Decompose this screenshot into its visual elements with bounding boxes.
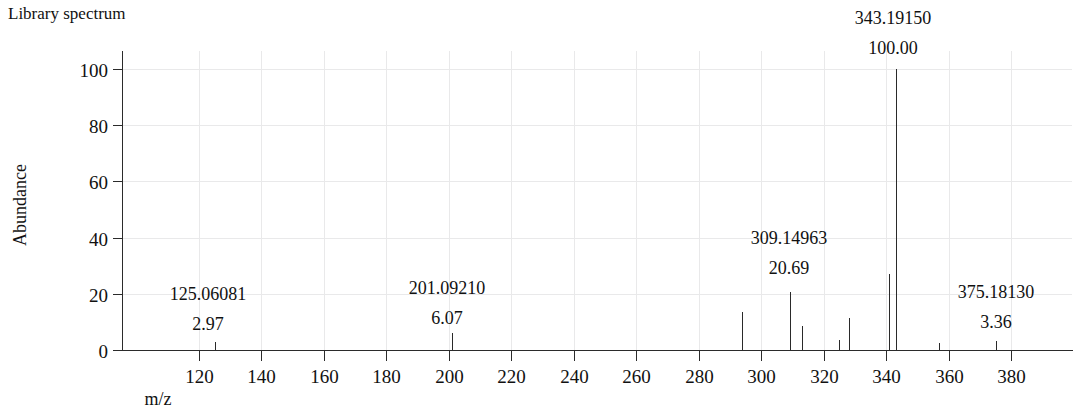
x-tick-label: 200: [435, 366, 464, 387]
peak-label-group: 309.1496320.69: [751, 228, 828, 278]
peak-label-group: 125.060812.97: [170, 284, 247, 334]
peak-mz-label: 125.06081: [170, 284, 247, 304]
x-tick-label: 220: [497, 366, 526, 387]
y-tick-label: 80: [89, 116, 108, 137]
peak-label-group: 201.092106.07: [409, 278, 486, 328]
x-tick-label: 160: [310, 366, 339, 387]
x-tick-label: 280: [685, 366, 714, 387]
peak-lines: [216, 69, 997, 351]
peak-label-group: 375.181303.36: [958, 282, 1035, 332]
x-tick-label: 360: [935, 366, 964, 387]
x-tick-label: 240: [560, 366, 589, 387]
y-tick-label: 100: [80, 60, 109, 81]
y-axis-ticks: 020406080100: [80, 60, 123, 362]
x-tick-label: 140: [247, 366, 276, 387]
y-tick-label: 0: [99, 341, 109, 362]
x-tick-label: 340: [872, 366, 901, 387]
peak-abundance-label: 3.36: [980, 312, 1012, 332]
mass-spectrum-plot: 020406080100 120140160180200220240260280…: [0, 0, 1081, 417]
x-axis-title: m/z: [145, 389, 172, 409]
x-tick-label: 180: [372, 366, 401, 387]
y-tick-label: 60: [89, 172, 108, 193]
peak-mz-label: 375.18130: [958, 282, 1035, 302]
y-tick-label: 40: [89, 229, 108, 250]
x-tick-label: 300: [747, 366, 776, 387]
x-axis-ticks: 1201401601802002202402602803003203403603…: [185, 351, 1026, 388]
peak-abundance-label: 20.69: [769, 258, 810, 278]
peak-abundance-label: 6.07: [431, 308, 463, 328]
y-axis-title: Abundance: [10, 164, 30, 246]
x-tick-label: 120: [185, 366, 214, 387]
spectrum-viewer: Library spectrum 020406080100 1201401601…: [0, 0, 1081, 417]
peak-abundance-label: 100.00: [868, 38, 918, 58]
x-tick-label: 380: [997, 366, 1026, 387]
peak-label-group: 343.19150100.00: [855, 8, 932, 58]
y-tick-label: 20: [89, 285, 108, 306]
peak-mz-label: 201.09210: [409, 278, 486, 298]
peak-mz-label: 343.19150: [855, 8, 932, 28]
grid-lines: [123, 51, 1072, 350]
peak-annotations: 125.060812.97201.092106.07309.1496320.69…: [170, 8, 1035, 334]
x-tick-label: 320: [810, 366, 839, 387]
peak-mz-label: 309.14963: [751, 228, 828, 248]
x-tick-label: 260: [622, 366, 651, 387]
peak-abundance-label: 2.97: [192, 314, 224, 334]
